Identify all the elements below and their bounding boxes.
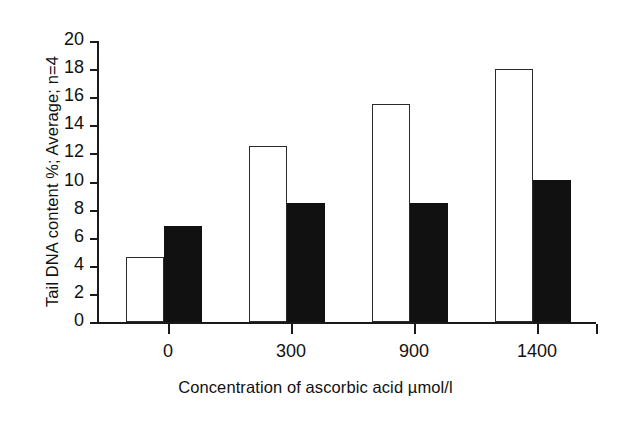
y-tick-label: 2	[44, 283, 84, 301]
y-tick-label: 14	[44, 114, 84, 132]
x-tick-label-900: 900	[369, 341, 459, 361]
y-tick-18: 18	[90, 69, 99, 71]
y-tick-20: 20	[90, 41, 99, 43]
y-tick-16: 16	[90, 97, 99, 99]
bar-filled-bars-300	[287, 203, 325, 322]
bar-open-bars-900	[372, 104, 410, 322]
y-tick-label: 10	[44, 171, 84, 189]
x-tick	[414, 324, 416, 334]
plot-area: 20181614121086420 03009001400	[97, 41, 596, 323]
x-axis-line	[97, 322, 596, 324]
y-tick-label: 4	[44, 255, 84, 273]
bar-open-bars-1400	[495, 69, 533, 322]
y-tick-label: 16	[44, 86, 84, 104]
y-tick-label: 0	[44, 311, 84, 329]
bar-filled-bars-0	[164, 226, 202, 322]
y-tick-0: 0	[90, 322, 99, 324]
y-tick-12: 12	[90, 153, 99, 155]
y-tick-4: 4	[90, 266, 99, 268]
y-tick-10: 10	[90, 182, 99, 184]
y-tick-label: 20	[44, 30, 84, 48]
bar-chart-figure: Tail DNA content %; Average; n=4 2018161…	[0, 0, 631, 422]
y-tick-8: 8	[90, 210, 99, 212]
x-tick	[596, 324, 598, 334]
x-tick-label-300: 300	[246, 341, 336, 361]
x-tick	[168, 324, 170, 334]
y-tick-6: 6	[90, 238, 99, 240]
y-tick-14: 14	[90, 125, 99, 127]
bar-open-bars-0	[126, 257, 164, 322]
y-tick-label: 12	[44, 142, 84, 160]
bar-filled-bars-900	[410, 203, 448, 322]
x-tick	[537, 324, 539, 334]
bar-open-bars-300	[249, 146, 287, 322]
x-tick-label-1400: 1400	[492, 341, 582, 361]
y-tick-label: 18	[44, 58, 84, 76]
y-tick-2: 2	[90, 294, 99, 296]
x-axis-title: Concentration of ascorbic acid µmol/l	[0, 378, 631, 397]
x-tick-label-0: 0	[123, 341, 213, 361]
x-tick	[291, 324, 293, 334]
bar-filled-bars-1400	[533, 180, 571, 322]
y-tick-label: 8	[44, 199, 84, 217]
y-tick-label: 6	[44, 227, 84, 245]
